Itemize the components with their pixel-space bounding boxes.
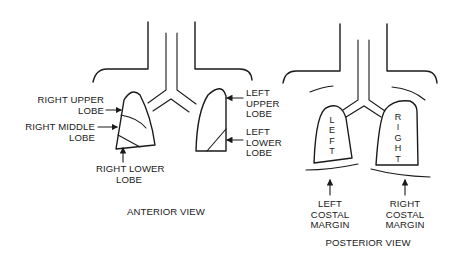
posterior-scapula-curves (310, 86, 425, 100)
label-left-lower-lobe: LEFT LOWER LOBE (246, 127, 286, 159)
anterior-trachea (148, 33, 196, 112)
posterior-pointer-arrows (330, 180, 405, 195)
label-right-lower-lobe: RIGHT LOWER LOBE (96, 164, 162, 185)
posterior-right-lung-text: R I G H T (393, 112, 403, 164)
anterior-torso-outline (93, 22, 252, 82)
label-right-upper-lobe: RIGHT UPPER LOBE (25, 95, 104, 116)
label-right-middle-lobe: RIGHT MIDDLE LOBE (10, 122, 95, 143)
label-left-upper-lobe: LEFT UPPER LOBE (246, 88, 286, 120)
posterior-trachea (343, 40, 385, 117)
posterior-costal-margins (306, 164, 430, 177)
anterior-right-lung (116, 92, 155, 149)
posterior-torso-outline (283, 24, 437, 83)
anterior-view-caption: ANTERIOR VIEW (118, 207, 214, 218)
posterior-left-lung-text: L E F T (327, 115, 337, 157)
label-left-costal-margin: LEFT COSTAL MARGIN (305, 199, 355, 231)
posterior-view-caption: POSTERIOR VIEW (318, 238, 418, 249)
anterior-left-lung (196, 89, 226, 151)
label-right-costal-margin: RIGHT COSTAL MARGIN (380, 199, 430, 231)
